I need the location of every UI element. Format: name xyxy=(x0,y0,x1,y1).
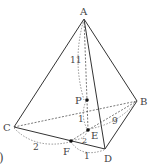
label-C: C xyxy=(3,122,11,133)
segment-PE xyxy=(87,100,88,130)
measure-FD: 1 xyxy=(84,151,90,161)
edge-AB xyxy=(84,19,137,101)
label-D: D xyxy=(104,153,112,164)
partial-paren: ) xyxy=(0,151,4,165)
measure-EB: 9 xyxy=(112,116,118,126)
brace-CF xyxy=(14,128,70,144)
tetrahedron-diagram: A B C D P E F 11 1 9 2 2 1 ) xyxy=(0,0,156,168)
measure-FE: 2 xyxy=(82,136,87,145)
measure-CF: 2 xyxy=(33,142,39,152)
edge-BD xyxy=(105,101,137,149)
label-F: F xyxy=(63,146,70,157)
edge-AC xyxy=(14,19,84,127)
label-A: A xyxy=(79,6,88,17)
brace-PE xyxy=(83,101,87,129)
label-E: E xyxy=(91,130,98,141)
point-F xyxy=(69,139,73,143)
point-P xyxy=(85,98,89,102)
label-P: P xyxy=(75,95,82,106)
label-B: B xyxy=(140,96,147,107)
point-E xyxy=(86,128,90,132)
measure-AP: 11 xyxy=(70,55,81,65)
measure-PE: 1 xyxy=(78,114,84,124)
